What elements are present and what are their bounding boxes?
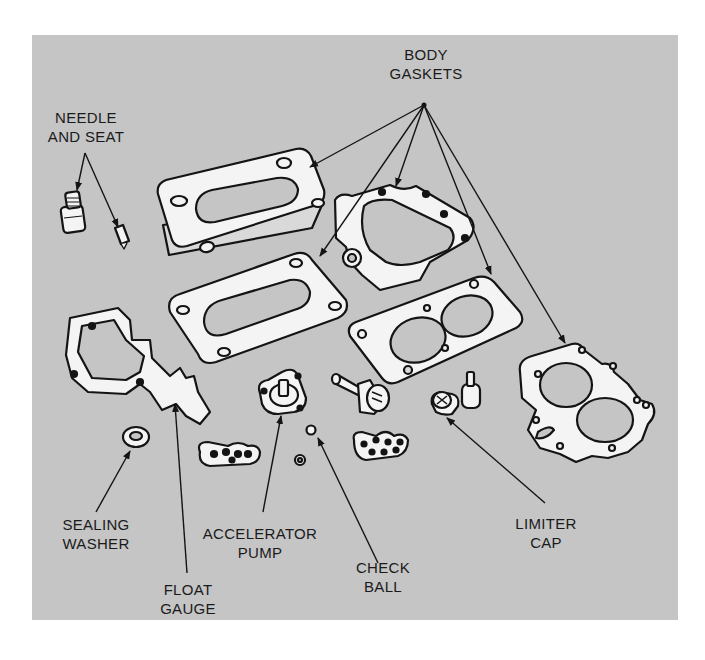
body-gasket-4 <box>349 277 522 384</box>
body-gasket-1 <box>158 149 325 255</box>
label-float-gauge: FLOAT GAUGE <box>150 580 226 618</box>
small-gasket-left <box>199 442 260 466</box>
label-needle-and-seat: NEEDLE AND SEAT <box>36 108 136 146</box>
body-gasket-3 <box>169 253 347 363</box>
label-accelerator-pump: ACCELERATOR PUMP <box>188 524 332 562</box>
label-body-gaskets: BODY GASKETS <box>386 45 466 83</box>
label-limiter-cap: LIMITER CAP <box>508 514 584 552</box>
limiter-cap <box>432 392 459 415</box>
retainer-clip <box>295 455 305 465</box>
idle-mixture-screw <box>332 374 389 414</box>
needle-seat-fitting <box>60 191 85 233</box>
power-valve <box>462 372 480 408</box>
body-gasket-2 <box>335 185 474 290</box>
label-check-ball: CHECK BALL <box>348 558 418 596</box>
label-sealing-washer: SEALING WASHER <box>54 515 138 553</box>
sealing-washer <box>123 427 149 447</box>
needle <box>115 225 129 249</box>
body-gasket-5 <box>520 344 655 462</box>
accelerator-pump <box>259 370 306 414</box>
check-ball <box>307 426 316 435</box>
small-gasket-center <box>354 432 408 460</box>
